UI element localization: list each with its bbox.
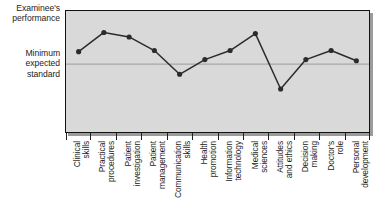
x-axis-category-label: Patient management — [149, 141, 163, 207]
x-axis-tick — [116, 133, 117, 140]
data-point — [253, 31, 258, 36]
x-axis-tick — [294, 133, 295, 140]
plot-panel — [65, 10, 370, 133]
x-axis-tick — [90, 133, 91, 140]
data-point-markers — [76, 30, 359, 92]
x-axis-category-labels: Clinical skillsPractical proceduresPatie… — [65, 141, 370, 209]
x-axis-category-label: Practical procedures — [98, 141, 112, 207]
x-axis-category-label: Decision making — [301, 141, 315, 207]
x-axis-tick — [243, 133, 244, 140]
x-axis-category-label: Medical sciences — [251, 141, 265, 207]
performance-profile-chart: Examinee's performance Minimum expected … — [0, 0, 383, 209]
data-point — [228, 48, 233, 53]
x-axis-category-label: Health promotion — [200, 141, 214, 207]
x-axis-category-label: Clinical skills — [73, 141, 87, 207]
x-axis-category-label: Personal development — [352, 141, 366, 207]
x-axis-category-label: Communication skills — [174, 141, 188, 207]
x-axis-tick — [345, 133, 346, 140]
data-point — [303, 57, 308, 62]
x-axis-tick — [369, 133, 370, 140]
x-axis-tick — [192, 133, 193, 140]
data-point — [202, 57, 207, 62]
x-axis-tick — [268, 133, 269, 140]
data-point — [177, 72, 182, 77]
data-point — [76, 49, 81, 54]
data-point — [127, 34, 132, 39]
x-axis-category-label: Information technology — [225, 141, 239, 207]
x-axis-tick — [167, 133, 168, 140]
performance-line — [79, 32, 357, 89]
plot-svg — [66, 11, 369, 132]
data-point — [152, 48, 157, 53]
x-axis-category-label: Attitudes and ethics — [276, 141, 290, 207]
data-point — [101, 30, 106, 35]
y-axis-top-label: Examinee's performance — [0, 3, 60, 24]
x-axis-tick — [218, 133, 219, 140]
x-axis-tick — [319, 133, 320, 140]
y-axis-threshold-label: Minimum expected standard — [0, 48, 60, 79]
x-axis-tick-marks — [65, 133, 370, 141]
x-axis-tick — [66, 133, 67, 140]
x-axis-category-label: Patient investigation — [124, 141, 138, 207]
x-axis-category-label: Doctor's role — [327, 141, 341, 207]
data-point — [354, 58, 359, 63]
data-point — [278, 86, 283, 91]
x-axis-tick — [141, 133, 142, 140]
data-point — [329, 48, 334, 53]
